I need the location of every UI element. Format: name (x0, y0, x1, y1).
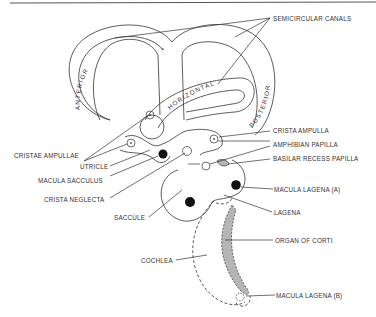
macula-sacculus-dot (159, 150, 168, 159)
anterior-canal-label: ANTERIOR (74, 67, 90, 111)
macula-lagena-a-dot (231, 180, 241, 190)
inner-ear-diagram: ANTERIOR HORIZONTAL POSTERIOR (0, 0, 376, 317)
label-semicircular-canals: SEMICIRCULAR CANALS (273, 15, 351, 22)
label-saccule: SACCULE (114, 214, 145, 221)
vestibule-structures (120, 111, 229, 170)
label-crista-ampulla: CRISTA AMPULLA (273, 127, 329, 134)
label-utricle: UTRICLE (80, 163, 108, 170)
basilar-recess-papilla-shape (217, 160, 229, 166)
label-lagena: LAGENA (274, 209, 301, 216)
label-macula-lagena-b: MACULA LAGENA (B) (276, 292, 342, 300)
top-rule (10, 2, 376, 3)
cochlea (193, 198, 251, 306)
semicircular-canals-shape (69, 24, 275, 135)
label-macula-sacculus: MACULA SACCULUS (38, 177, 103, 184)
label-cristae-ampullae: CRISTAE AMPULLAE (14, 152, 79, 159)
leader-lines (84, 18, 275, 296)
label-crista-neglecta: CRISTA NEGLECTA (44, 196, 105, 203)
label-basilar-recess-papilla: BASILAR RECESS PAPILLA (273, 155, 359, 162)
label-macula-lagena-a: MACULA LAGENA (A) (274, 186, 340, 194)
posterior-canal-label: POSTERIOR (247, 84, 271, 129)
label-amphibian-papilla: AMPHIBIAN PAPILLA (273, 141, 338, 148)
organ-of-corti-shape (222, 205, 249, 295)
saccule-macula-dot (185, 197, 195, 207)
label-organ-of-corti: ORGAN OF CORTI (275, 237, 333, 244)
label-cochlea: COCHLEA (141, 257, 173, 264)
